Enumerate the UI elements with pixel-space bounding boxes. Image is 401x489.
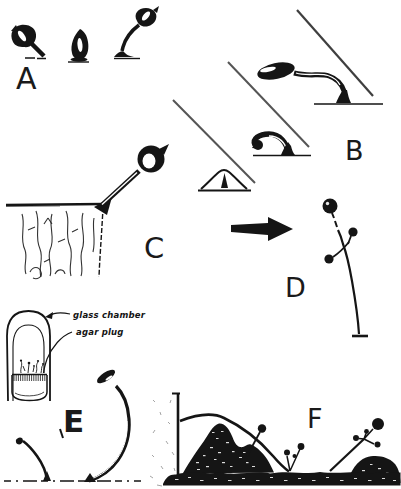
rotating-sporangiophore xyxy=(323,199,369,337)
glass-chamber-outline xyxy=(7,311,50,401)
sporangiophore-a1 xyxy=(11,25,46,59)
panel-f-label: F xyxy=(307,403,323,434)
panel-a: A xyxy=(11,6,159,96)
curled-sporangiophore xyxy=(252,134,311,156)
wall-edge xyxy=(172,394,180,478)
glass-chamber-leader-line xyxy=(45,312,70,319)
panel-b-label: B xyxy=(345,135,364,166)
panel-a-label: A xyxy=(16,61,37,96)
panel-d: D xyxy=(231,199,368,337)
agar-plug-drawing xyxy=(12,359,47,400)
substrate-block xyxy=(6,204,103,279)
panel-f: F xyxy=(150,394,401,487)
scientific-figure: A B xyxy=(0,0,401,489)
sporangiophore-a2 xyxy=(68,29,89,62)
bending-sporangiophore xyxy=(256,59,383,104)
panel-c-label: C xyxy=(144,231,164,265)
tall-sporangiophore xyxy=(84,367,129,482)
gray-speckles xyxy=(150,400,175,486)
transition-arrow-icon xyxy=(231,217,293,241)
corner-sporangiophore xyxy=(94,144,169,215)
ground-band xyxy=(163,472,401,486)
light-beam-line-3 xyxy=(173,100,255,183)
panel-b: B xyxy=(173,10,383,191)
agar-plug-annotation: agar plug xyxy=(76,327,124,337)
glass-chamber-annotation: glass chamber xyxy=(73,310,146,320)
agar-plug-leader-line xyxy=(44,332,73,373)
young-mound xyxy=(198,170,251,190)
light-beam-line-1 xyxy=(297,10,373,96)
small-sporangiophore xyxy=(16,438,51,481)
panel-c: C xyxy=(6,144,169,279)
figure-canvas: A B xyxy=(0,0,401,489)
panel-e: glass chamber agar plug E xyxy=(4,310,146,482)
substrate-cracks xyxy=(22,211,94,279)
panel-e-label: E xyxy=(63,403,84,439)
panel-d-label: D xyxy=(285,272,306,303)
plug-sprouts xyxy=(20,359,44,373)
middle-fruiting-cluster xyxy=(284,443,304,471)
sporangiophore-a3 xyxy=(114,6,159,59)
